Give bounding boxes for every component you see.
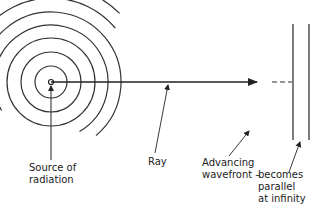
ray-leader-line (155, 85, 168, 153)
source-label-line1: Source of (29, 162, 76, 174)
ray-label: Ray (148, 156, 167, 168)
parallel-leader-line (289, 142, 300, 172)
wavefront-arc (0, 12, 121, 136)
parallel-label-line1: becomes (258, 169, 303, 181)
plane-wavefronts (293, 24, 309, 140)
source-label-line2: radiation (29, 174, 74, 186)
wavefront-arc (0, 0, 115, 28)
wavefront-arc (0, 0, 120, 13)
parallel-label-line2: parallel (258, 181, 295, 193)
wavefront-arc (0, 25, 108, 131)
parallel-label-line3: at infinity (258, 193, 306, 205)
wavefront-leader-line (229, 131, 249, 156)
advancing-label-line1: Advancing (202, 157, 254, 169)
advancing-label-line2: wavefront – (202, 169, 260, 181)
